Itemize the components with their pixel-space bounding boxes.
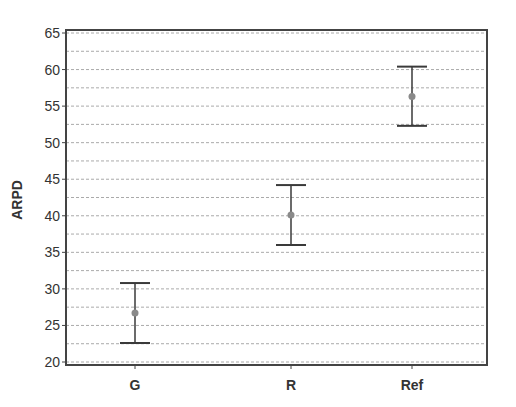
error-bar-ref — [397, 67, 427, 126]
x-tick-label: Ref — [401, 377, 424, 393]
y-tick-label: 50 — [44, 135, 60, 151]
error-bar-r — [276, 185, 306, 245]
y-tick-label: 45 — [44, 171, 60, 187]
x-tick-label: R — [286, 377, 296, 393]
gridlines — [66, 33, 487, 362]
x-axis-ticks: GRRef — [130, 365, 424, 393]
y-tick-label: 40 — [44, 208, 60, 224]
x-tick-label: G — [130, 377, 141, 393]
y-tick-label: 65 — [44, 25, 60, 41]
y-tick-label: 25 — [44, 317, 60, 333]
chart-svg: 20253035404550556065 ARPD GRRef — [0, 0, 516, 407]
y-tick-label: 55 — [44, 98, 60, 114]
y-tick-label: 30 — [44, 281, 60, 297]
y-axis-label: ARPD — [9, 180, 25, 220]
y-tick-label: 20 — [44, 354, 60, 370]
error-bar-g — [120, 283, 150, 343]
error-bars — [120, 67, 427, 343]
mean-point — [409, 93, 416, 100]
y-tick-label: 60 — [44, 62, 60, 78]
y-tick-label: 35 — [44, 244, 60, 260]
y-axis-ticks: 20253035404550556065 — [44, 25, 66, 370]
mean-point — [288, 212, 295, 219]
mean-point — [132, 310, 139, 317]
